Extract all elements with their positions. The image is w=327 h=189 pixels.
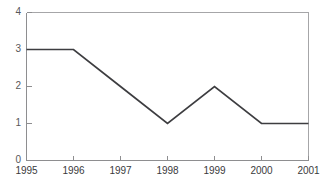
x-tick-label-1997: 1997 bbox=[109, 165, 132, 176]
x-tick-label-1996: 1996 bbox=[62, 165, 85, 176]
y-tick-label-2: 2 bbox=[15, 80, 21, 91]
data-series-line bbox=[27, 50, 309, 124]
chart-canvas: 4 3 2 1 0 1995 1996 1997 1998 1999 2000 … bbox=[0, 0, 327, 189]
line-chart: 4 3 2 1 0 1995 1996 1997 1998 1999 2000 … bbox=[0, 0, 327, 189]
y-tick-labels: 4 3 2 1 0 bbox=[15, 6, 21, 165]
x-tick-label-1998: 1998 bbox=[156, 165, 179, 176]
y-tick-label-0: 0 bbox=[15, 154, 21, 165]
x-tick-label-2001: 2001 bbox=[297, 165, 320, 176]
y-tick-marks bbox=[27, 13, 32, 161]
x-tick-marks bbox=[27, 156, 309, 161]
y-tick-label-4: 4 bbox=[15, 6, 21, 17]
x-tick-label-1995: 1995 bbox=[15, 165, 38, 176]
y-tick-label-1: 1 bbox=[15, 117, 21, 128]
x-tick-label-2000: 2000 bbox=[250, 165, 273, 176]
x-tick-label-1999: 1999 bbox=[203, 165, 226, 176]
plot-frame-top-right bbox=[27, 13, 309, 161]
y-tick-label-3: 3 bbox=[15, 43, 21, 54]
cut-off-caption bbox=[0, 180, 327, 189]
x-tick-labels: 1995 1996 1997 1998 1999 2000 2001 bbox=[15, 165, 320, 176]
